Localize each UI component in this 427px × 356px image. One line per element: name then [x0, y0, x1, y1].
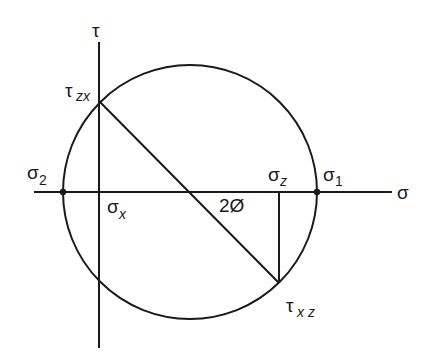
sigma1-point	[314, 189, 320, 195]
sigma-z-label: σ	[268, 164, 280, 185]
sigma-x-label: σ	[107, 196, 119, 217]
mohr-circle-diagram: τ σ τ zx σ 2 σ x σ z σ 1 2Ø τ x z	[0, 0, 427, 356]
sigma1-label: σ	[323, 164, 335, 185]
tau-zx-label: τ	[65, 80, 73, 101]
tau-zx-subscript: zx	[75, 88, 91, 104]
tau-axis-label: τ	[92, 20, 100, 41]
sigma-axis-label: σ	[397, 182, 409, 203]
sigma-x-subscript: x	[118, 206, 127, 222]
tau-xz-label: τ	[286, 295, 294, 316]
sigma-z-subscript: z	[279, 173, 287, 189]
angle-2phi-label: 2Ø	[219, 195, 245, 216]
tau-xz-subscript: x z	[296, 304, 315, 320]
sigma2-point	[60, 189, 66, 195]
sigma1-subscript: 1	[335, 173, 343, 189]
sigma2-subscript: 2	[39, 172, 47, 188]
sigma2-label: σ	[27, 162, 39, 183]
